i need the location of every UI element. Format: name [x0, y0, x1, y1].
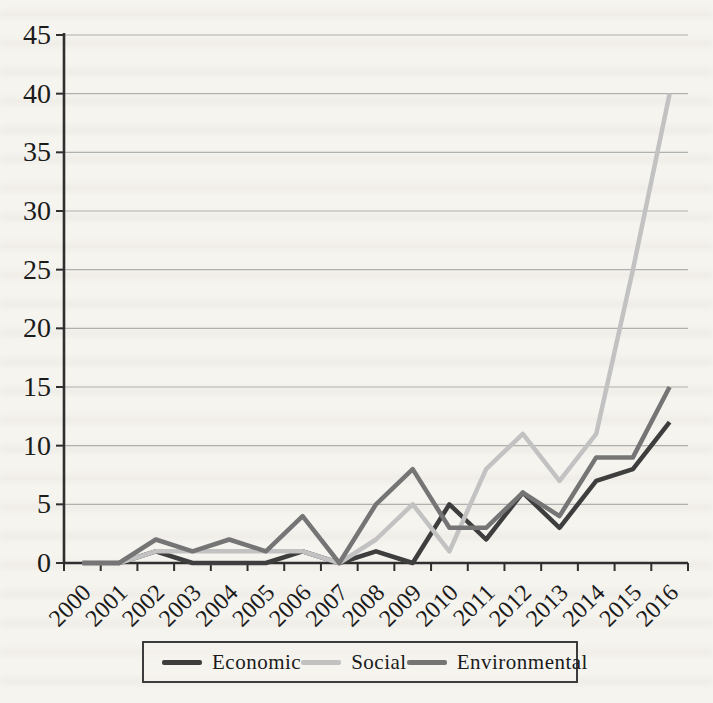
legend-item-economic: Economic: [162, 650, 301, 675]
legend-item-environmental: Environmental: [407, 650, 588, 675]
legend-item-social: Social: [301, 650, 407, 675]
y-tick-label-10: 10: [23, 430, 51, 461]
y-tick-label-35: 35: [23, 136, 51, 167]
legend-label-social: Social: [351, 650, 407, 675]
y-tick-label-40: 40: [23, 78, 51, 109]
legend-label-environmental: Environmental: [457, 650, 588, 675]
legend-label-economic: Economic: [212, 650, 301, 675]
y-tick-label-45: 45: [23, 19, 51, 50]
scanned-page: 0510152025303540452000200120022003200420…: [0, 0, 713, 703]
y-tick-label-0: 0: [37, 547, 51, 578]
environmental-line-swatch-icon: [407, 660, 447, 665]
y-tick-label-25: 25: [23, 254, 51, 285]
y-tick-label-5: 5: [37, 488, 51, 519]
x-tick-label-2016: 2016: [631, 579, 683, 631]
social-line-swatch-icon: [301, 660, 341, 665]
y-tick-label-15: 15: [23, 371, 51, 402]
line-chart: 0510152025303540452000200120022003200420…: [0, 0, 713, 703]
y-tick-label-20: 20: [23, 312, 51, 343]
y-tick-label-30: 30: [23, 195, 51, 226]
legend: Economic Social Environmental: [142, 641, 578, 683]
economic-line-swatch-icon: [162, 660, 202, 665]
